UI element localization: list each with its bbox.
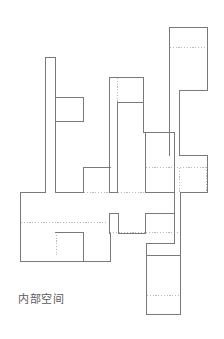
canvas-background bbox=[0, 0, 224, 339]
interior-space-figure: 内部空间 bbox=[0, 0, 224, 339]
figure-caption: 内部空间 bbox=[18, 293, 64, 307]
floor-plan-svg bbox=[0, 0, 224, 339]
